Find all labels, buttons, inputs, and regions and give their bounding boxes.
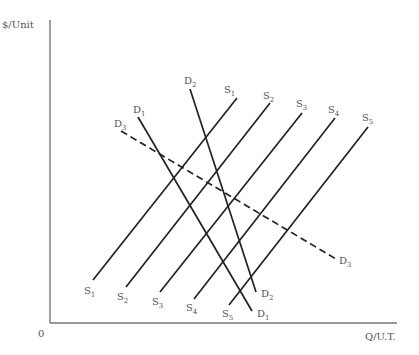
- curve-label: D2: [261, 288, 274, 302]
- y-axis-label: $/Unit: [2, 19, 34, 30]
- curve-label: S4: [186, 302, 198, 316]
- supply-curve-s5: [229, 127, 368, 305]
- curve-label: S4: [328, 104, 340, 118]
- origin-label: 0: [38, 328, 44, 339]
- x-axis-label: Q/U.T.: [365, 331, 396, 342]
- curve-label: S5: [222, 308, 233, 322]
- curve-label: S5: [362, 112, 373, 126]
- supply-curve-s4: [194, 118, 335, 299]
- curve-label: S3: [152, 296, 163, 310]
- supply-demand-diagram: $/Unit Q/U.T. 0 S1S2S3S4S5D2D1D3S1S2S3S4…: [0, 0, 419, 355]
- demand-curve-d1: [138, 117, 252, 311]
- curves-group: [93, 89, 368, 311]
- curve-label: S1: [224, 84, 235, 98]
- curve-label: D3: [114, 118, 127, 132]
- curve-label: D1: [257, 308, 270, 322]
- curve-label: D1: [133, 104, 146, 118]
- supply-curve-s2: [126, 103, 270, 287]
- curve-label: S3: [296, 98, 307, 112]
- curve-label: S1: [84, 285, 95, 299]
- curve-label: D2: [184, 75, 197, 89]
- curve-label: S2: [263, 90, 274, 104]
- curve-label: S2: [117, 291, 128, 305]
- curve-label: D3: [339, 255, 352, 269]
- supply-curve-s3: [160, 113, 302, 292]
- demand-curve-d3: [121, 131, 336, 259]
